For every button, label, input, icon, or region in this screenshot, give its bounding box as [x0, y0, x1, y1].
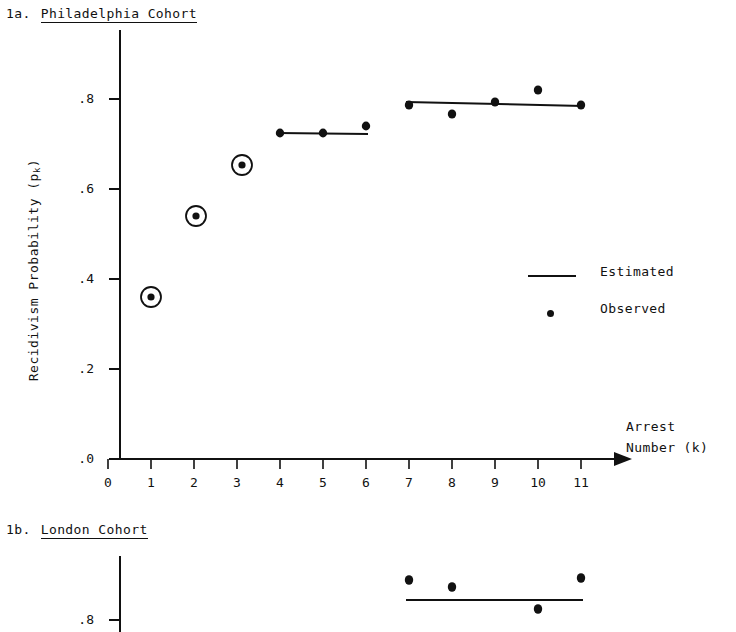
legend-label-observed: Observed: [600, 301, 666, 316]
y-axis-label-1a: Recidivism Probability (pk): [26, 140, 42, 400]
y-axis-label-paren: ): [26, 159, 41, 167]
y-tick-label-08: .8: [60, 91, 94, 106]
observed-point-k8: [448, 109, 456, 118]
circled-point-k1: [141, 287, 161, 307]
x-tick-label-1: 1: [139, 475, 163, 490]
y-tick-label-04: .4: [60, 271, 94, 286]
circled-point-k3: [232, 155, 252, 175]
x-tick-label-5: 5: [311, 475, 335, 490]
observed-point-k7: [405, 100, 413, 109]
x-tick-label-11: 11: [569, 475, 593, 490]
y-tick-label-02: .2: [60, 361, 94, 376]
x-tick-label-6: 6: [354, 475, 378, 490]
observed-point-k10: [534, 85, 542, 94]
observed-point-1b-1: [405, 575, 413, 585]
figure-page: 1a.Philadelphia Cohort: [0, 0, 736, 632]
panel-index-1b: 1b.: [6, 522, 31, 537]
observed-point-k6: [362, 122, 370, 131]
x-tick-label-4: 4: [268, 475, 292, 490]
legend-dot-icon: [528, 307, 576, 319]
panel-title-1b: 1b.London Cohort: [6, 522, 148, 537]
observed-point-1b-2: [448, 582, 456, 592]
observed-point-k9: [491, 97, 499, 106]
observed-points-1b: [405, 573, 585, 614]
x-ticks-1a: [108, 459, 581, 469]
observed-point-1b-4: [577, 573, 585, 583]
y-tick-label-00: .0: [60, 451, 94, 466]
y-ticks-1a: [109, 99, 120, 459]
observed-point-k4: [276, 129, 284, 138]
x-axis-label-1a: Arrest Number (k): [626, 416, 708, 458]
x-tick-label-3: 3: [225, 475, 249, 490]
x-tick-label-9: 9: [483, 475, 507, 490]
observed-point-k5: [319, 129, 327, 138]
observed-points-1a: [276, 85, 585, 137]
x-axis-label-line1: Arrest: [626, 416, 708, 437]
chart-london-cohort: [0, 556, 736, 632]
x-tick-label-7: 7: [397, 475, 421, 490]
x-tick-label-10: 10: [526, 475, 550, 490]
legend-label-estimated: Estimated: [600, 264, 674, 279]
x-tick-label-0: 0: [96, 475, 120, 490]
observed-point-1b-3: [534, 604, 542, 614]
circled-point-k2: [186, 206, 206, 226]
y-tick-label-06: .6: [60, 181, 94, 196]
x-axis-label-line2: Number (k): [626, 437, 708, 458]
panel-name-1b: London Cohort: [41, 522, 148, 539]
y-axis-label-subscript: k: [32, 167, 42, 173]
x-tick-label-2: 2: [182, 475, 206, 490]
y-axis-label-text: Recidivism Probability (p: [26, 173, 41, 381]
observed-point-k11: [577, 100, 585, 109]
x-tick-label-8: 8: [440, 475, 464, 490]
legend-line-icon: [528, 270, 576, 282]
y-tick-label-1b-08: .8: [60, 612, 94, 627]
